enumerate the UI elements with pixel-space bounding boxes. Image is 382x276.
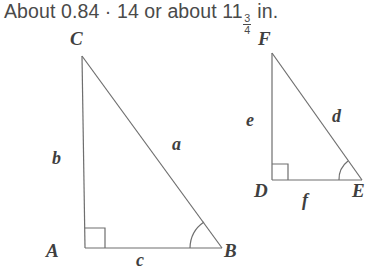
segment-ac <box>82 56 85 248</box>
vertex-label-a: A <box>46 240 59 262</box>
right-angle-mark-a <box>85 228 105 248</box>
answer-text-part-two: in. <box>252 0 278 22</box>
clipped-glyph-left: ˘ <box>122 0 128 17</box>
triangle-def-shape <box>272 53 362 180</box>
side-label-e: e <box>246 110 254 131</box>
side-label-f: f <box>302 190 308 211</box>
side-label-c: c <box>136 250 144 271</box>
clipped-glyph-right: ˘ <box>342 0 348 17</box>
side-label-d: d <box>332 106 341 127</box>
vertex-label-b: B <box>224 240 237 262</box>
vertex-label-e: E <box>352 180 365 202</box>
triangles-figure: C A B b a c F D E e d f <box>0 22 382 276</box>
segment-fe <box>272 53 362 180</box>
segment-cb <box>82 56 222 248</box>
vertex-label-c: C <box>70 28 83 50</box>
vertex-label-f: F <box>258 28 271 50</box>
right-angle-mark-d <box>272 164 288 180</box>
triangle-abc-shape <box>82 56 222 248</box>
angle-mark-b <box>190 222 204 248</box>
side-label-a: a <box>172 134 181 155</box>
vertex-label-d: D <box>254 180 268 202</box>
angle-mark-e <box>339 161 348 180</box>
side-label-b: b <box>52 148 61 169</box>
answer-statement: ˘ ˘ About 0.84 · 14 or about 1134 in. <box>4 0 382 24</box>
